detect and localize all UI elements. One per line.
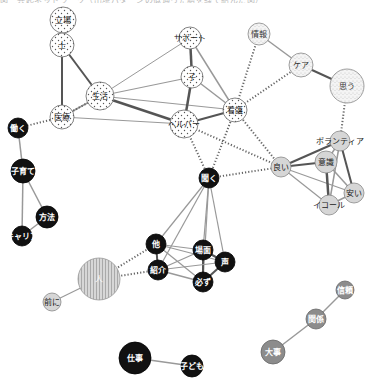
node-label: 医療	[54, 112, 70, 122]
node-label: ケア	[293, 61, 309, 70]
node-label: 聞く	[201, 173, 217, 183]
node-shoukai: 紹介	[148, 260, 168, 280]
node-yoi: 良い	[271, 157, 291, 177]
node-hataraku: 働く	[8, 118, 28, 138]
node-omou: 思う	[330, 69, 364, 103]
node-hito: 人	[78, 258, 120, 300]
node-label: 士	[58, 40, 66, 50]
node-label: サポート	[174, 34, 206, 43]
node-label: 生活	[92, 91, 108, 101]
node-label: 仕事	[126, 353, 143, 363]
node-label: 場面	[195, 245, 211, 255]
node-houhou: 方法	[36, 206, 58, 228]
node-label: 子育て	[11, 166, 35, 176]
node-jouhou: 情報	[248, 23, 270, 45]
node-kanarazu: 必ず	[193, 272, 213, 292]
node-label: 子ども	[180, 361, 204, 371]
node-iryou: 医療	[50, 105, 74, 129]
node-layer: 立場士生活医療サポート子看護ヘルパー情報ケア思う働く子育て方法キャリア良いボラン…	[6, 7, 364, 377]
node-shinrai: 信頼	[336, 281, 354, 299]
node-career: キャリア	[6, 226, 38, 246]
node-label: 他	[151, 239, 160, 249]
edge-yoi-kiku	[209, 167, 281, 178]
node-label: イコール	[313, 201, 345, 210]
node-yasui: 安い	[344, 183, 364, 203]
node-label: ボランティア	[316, 137, 364, 146]
node-label: 前に	[44, 297, 60, 307]
node-helper: ヘルパー	[168, 110, 200, 138]
node-ko: 子	[181, 66, 203, 88]
node-label: ヘルパー	[168, 120, 200, 129]
node-label: 働く	[9, 123, 26, 133]
node-label: 声	[220, 257, 229, 267]
node-kodomo: 子ども	[180, 355, 204, 377]
node-equal: イコール	[313, 195, 345, 215]
node-label: キャリア	[6, 231, 38, 241]
node-label: 情報	[251, 29, 267, 39]
node-label: 思う	[339, 82, 355, 91]
node-label: 立場	[55, 15, 71, 25]
node-care: ケア	[289, 53, 313, 77]
node-label: 紹介	[150, 265, 167, 275]
node-label: 子	[188, 73, 196, 82]
node-koe: 声	[215, 252, 235, 272]
node-label: 必ず	[194, 277, 211, 287]
node-label: 方法	[39, 212, 55, 222]
node-label: 意識	[318, 157, 334, 167]
node-hoka: 他	[146, 234, 166, 254]
node-kankei: 関係	[306, 309, 326, 329]
node-ishiki: 意識	[315, 151, 337, 173]
node-bamen: 場面	[193, 240, 213, 260]
edge-helper-yoi	[184, 124, 281, 167]
node-label: 大事	[265, 347, 281, 357]
node-label: 信頼	[337, 285, 354, 295]
node-tachiba: 立場	[50, 7, 76, 33]
node-kiku: 聞く	[199, 168, 219, 188]
node-maeni: 前に	[43, 293, 61, 311]
node-daiji: 大事	[261, 340, 285, 364]
node-kango: 看護	[223, 98, 247, 122]
node-shigoto: 仕事	[119, 342, 151, 374]
node-shi: 士	[50, 33, 74, 57]
node-label: 看護	[227, 105, 243, 115]
node-label: 良い	[273, 162, 289, 172]
edge-kiku-hoka	[156, 178, 209, 244]
node-seikatsu: 生活	[86, 82, 114, 110]
co-occurrence-network: 立場士生活医療サポート子看護ヘルパー情報ケア思う働く子育て方法キャリア良いボラン…	[0, 0, 373, 386]
node-label: 人	[95, 275, 103, 284]
node-label: 関係	[308, 314, 324, 324]
node-kosodate: 子育て	[11, 159, 35, 183]
node-label: 安い	[346, 188, 362, 198]
